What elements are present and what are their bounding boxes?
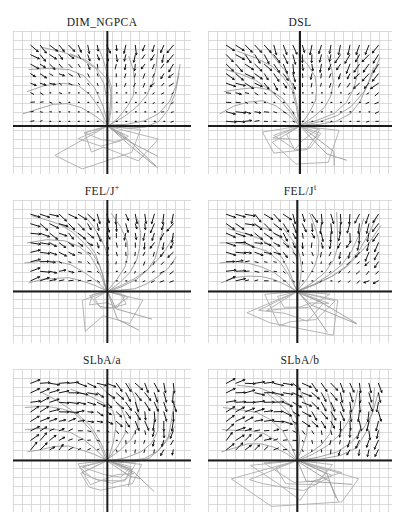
- panel-fel-j-transpose: FEL/Jt: [208, 180, 392, 343]
- quiver-plot: [208, 369, 392, 512]
- panel-title-text: SLbA/a: [83, 354, 121, 366]
- panel-fel-j-plus: FEL/J+: [13, 180, 191, 343]
- panel-title-text: FEL/J: [85, 185, 115, 197]
- panel-title-superscript: t: [314, 183, 316, 192]
- quiver-plot: [208, 200, 392, 343]
- quiver-plot: [13, 369, 191, 512]
- panel-title: DSL: [208, 11, 392, 27]
- panel-title-text: FEL/J: [284, 185, 314, 197]
- quiver-plot: [13, 200, 191, 343]
- panel-slba-a: SLbA/a: [13, 349, 191, 512]
- panel-title: FEL/Jt: [208, 180, 392, 196]
- figure-vector-field-comparison: DIM_NGPCA DSL FEL/J+ FEL/Jt SLbA/a SLbA/…: [0, 0, 407, 525]
- panel-dim-ngpca: DIM_NGPCA: [13, 11, 191, 174]
- panel-title-text: SLbA/b: [281, 354, 320, 366]
- panel-title: DIM_NGPCA: [13, 11, 191, 27]
- panel-title: FEL/J+: [13, 180, 191, 196]
- quiver-plot: [13, 31, 191, 174]
- panel-title-text: DSL: [289, 16, 312, 28]
- panel-title-text: DIM_NGPCA: [67, 16, 138, 28]
- panel-title-superscript: +: [115, 183, 120, 192]
- panel-title: SLbA/b: [208, 349, 392, 365]
- panel-title: SLbA/a: [13, 349, 191, 365]
- panel-slba-b: SLbA/b: [208, 349, 392, 512]
- panel-dsl: DSL: [208, 11, 392, 174]
- quiver-plot: [208, 31, 392, 174]
